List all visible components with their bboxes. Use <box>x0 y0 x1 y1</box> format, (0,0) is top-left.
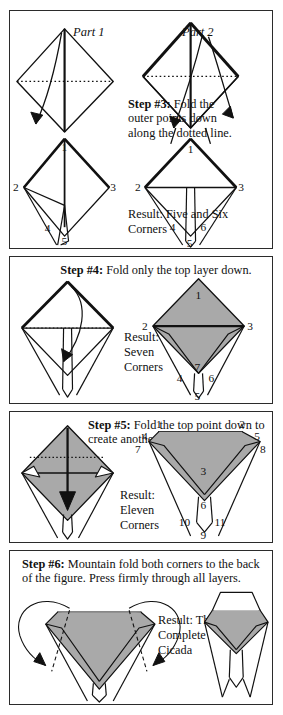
corner-number: 4 <box>45 222 51 234</box>
corner-number: 3 <box>247 320 253 332</box>
corner-number: 4 <box>142 430 148 442</box>
corner-number: 7 <box>135 443 141 455</box>
step-6-before-figure <box>19 601 181 702</box>
corner-number: 6 <box>201 221 207 233</box>
corner-number: 1 <box>156 418 162 430</box>
corner-number: 3 <box>110 181 116 193</box>
corner-number: 6 <box>201 499 207 511</box>
corner-number: 1 <box>62 141 68 153</box>
step-4-diagrams: 1 2 3 4 5 6 7 <box>10 257 272 403</box>
corner-number: 2 <box>13 181 19 193</box>
corner-number: 6 <box>208 372 214 384</box>
part-2-result-figure <box>145 139 236 247</box>
corner-number: 3 <box>201 465 207 477</box>
complete-cicada-figure <box>205 592 269 697</box>
panel-step-4: Step #4: Fold only the top layer down. R… <box>9 256 273 404</box>
corner-number: 7 <box>195 361 201 373</box>
corner-number: 11 <box>214 516 225 528</box>
corner-number: 1 <box>196 289 202 301</box>
part-1-result-figure <box>24 139 109 245</box>
corner-number: 4 <box>177 372 183 384</box>
panel-step-6: Step #6: Mountain fold both corners to t… <box>9 550 273 705</box>
step-4-before-figure <box>22 282 113 397</box>
corner-number: 3 <box>238 181 244 193</box>
corner-number: 2 <box>239 418 245 430</box>
corner-number: 4 <box>170 221 176 233</box>
corner-number: 8 <box>260 443 266 455</box>
corner-number: 2 <box>135 181 141 193</box>
step-5-result-figure <box>149 432 260 536</box>
step-5-before-figure <box>22 426 113 539</box>
part-1-before-figure <box>17 29 113 132</box>
part-2-before-figure <box>143 23 238 144</box>
corner-number: 5 <box>62 235 68 247</box>
step-6-diagrams <box>10 551 272 704</box>
instruction-sheet: Part 1 Part 2 Step #3: Fold the outer po… <box>0 0 283 715</box>
step-3-corner-numbers: 1 2 3 4 5 1 2 3 4 5 6 <box>13 141 244 248</box>
corner-number: 2 <box>142 320 148 332</box>
step-3-diagrams: 1 2 3 4 5 1 2 3 4 5 6 <box>10 11 272 248</box>
panel-step-3: Part 1 Part 2 Step #3: Fold the outer po… <box>9 10 273 249</box>
corner-number: 5 <box>187 237 193 248</box>
panel-step-5: Step #5: Fold the top point down to crea… <box>9 411 273 543</box>
corner-number: 1 <box>188 143 194 155</box>
corner-number: 9 <box>201 529 207 541</box>
corner-number: 10 <box>179 516 191 528</box>
step-5-diagrams: 1 2 3 4 5 6 7 8 9 10 11 <box>10 412 272 542</box>
corner-number: 5 <box>254 430 260 442</box>
corner-number: 5 <box>195 390 201 402</box>
